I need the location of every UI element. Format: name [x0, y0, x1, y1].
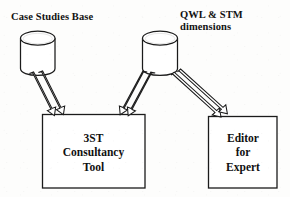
- diagram-canvas: Case Studies Base QWL & STM dimensions 3…: [0, 0, 290, 197]
- cylinder-qwl-stm-dimensions: [143, 31, 178, 75]
- label-case-studies-base: Case Studies Base: [11, 11, 93, 23]
- cylinder-case-studies-base: [21, 31, 56, 75]
- box-label-editor-for-expert: Editor for Expert: [209, 131, 277, 174]
- connector-qwl-stm-to-editor: [171, 69, 227, 117]
- connector-qwl-stm-to-tool: [119, 71, 155, 116]
- label-qwl-stm-dimensions: QWL & STM dimensions: [180, 9, 243, 33]
- box-label-consultancy-tool: 3ST Consultancy Tool: [43, 131, 144, 174]
- connector-case-studies-to-tool: [29, 71, 64, 116]
